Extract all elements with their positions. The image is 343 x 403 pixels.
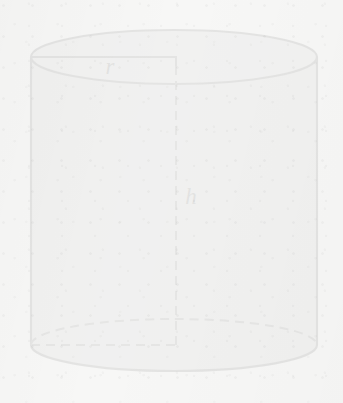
cylinder-lateral-surface [31,57,317,371]
cylinder-figure: r h [0,0,343,403]
cylinder-diagram-canvas: r h [0,0,343,403]
height-label: h [185,184,197,209]
cylinder-solid [31,30,317,371]
radius-label: r [106,54,116,79]
